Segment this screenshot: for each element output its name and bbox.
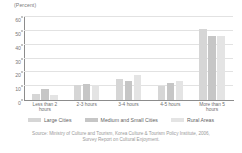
y-axis-tick-labels: 0102030405060 (0, 17, 21, 100)
bar (167, 83, 175, 100)
x-axis-line (24, 100, 234, 101)
x-category-label: 2-3 hours (66, 102, 108, 113)
chart-legend: Large CitiesMedium and Small CitiesRural… (0, 117, 242, 123)
bar (217, 36, 225, 100)
bar (176, 81, 184, 100)
legend-label: Rural Areas (187, 117, 214, 123)
x-category-label: More than 5 hours (191, 102, 233, 113)
x-axis-category-labels: Less than 2 hours2-3 hours3-4 hours4-5 h… (24, 102, 233, 113)
bar (83, 84, 91, 100)
legend-label: Large Cities (44, 117, 72, 123)
x-category-label: Less than 2 hours (24, 102, 66, 113)
bar-group (66, 17, 108, 100)
bar (125, 81, 133, 100)
chart-figure: (Percent) 0102030405060 Less than 2 hour… (0, 0, 242, 153)
x-category-label: 3-4 hours (108, 102, 150, 113)
bar-group (108, 17, 150, 100)
legend-label: Medium and Small Cities (101, 117, 158, 123)
source-line: Survey Report on Cultural Enjoyment. (0, 137, 242, 143)
plot-area (24, 17, 233, 100)
y-axis-unit-label: (Percent) (14, 2, 36, 8)
bar (208, 36, 216, 100)
legend-item[interactable]: Rural Areas (171, 117, 214, 123)
legend-swatch-icon (85, 118, 98, 123)
bar-group (191, 17, 233, 100)
bar (199, 29, 207, 100)
source-note: Source: Ministry of Culture and Tourism,… (0, 131, 242, 143)
bar (32, 94, 40, 100)
x-category-label: 4-5 hours (149, 102, 191, 113)
bar (92, 85, 100, 100)
bar-groups (24, 17, 233, 100)
bar (158, 86, 166, 100)
bar (134, 75, 142, 100)
bar-group (149, 17, 191, 100)
legend-item[interactable]: Large Cities (28, 117, 72, 123)
bar (50, 95, 58, 100)
bar (74, 85, 82, 100)
bar (116, 79, 124, 100)
legend-swatch-icon (28, 118, 41, 123)
bar (41, 89, 49, 100)
legend-item[interactable]: Medium and Small Cities (85, 117, 158, 123)
bar-group (24, 17, 66, 100)
legend-swatch-icon (171, 118, 184, 123)
